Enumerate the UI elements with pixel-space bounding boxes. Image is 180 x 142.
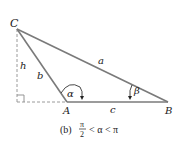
beta-angle-arc — [130, 85, 132, 97]
side-a-line — [17, 29, 168, 102]
side-label-h: h — [20, 60, 26, 71]
beta-arrowhead-icon — [128, 96, 132, 100]
vertex-label-b: B — [164, 105, 172, 116]
caption-frac-numerator: π — [80, 120, 84, 129]
caption-frac-denominator: 2 — [80, 130, 84, 139]
angle-label-beta: β — [133, 85, 140, 96]
alpha-arrowhead-icon — [80, 96, 84, 100]
side-label-a: a — [98, 55, 104, 66]
caption-inequality: < α < π — [89, 124, 118, 135]
right-angle-marker — [17, 95, 24, 102]
side-label-c: c — [110, 104, 116, 115]
oblique-triangle-diagram: C A B h b a c α β (b) π 2 < α < π — [0, 0, 180, 142]
vertex-label-c: C — [10, 17, 19, 30]
angle-label-alpha: α — [67, 88, 74, 99]
caption-prefix: (b) — [60, 124, 72, 136]
side-label-b: b — [37, 70, 43, 81]
vertex-label-a: A — [62, 105, 70, 116]
figure-caption: (b) π 2 < α < π — [60, 120, 118, 139]
